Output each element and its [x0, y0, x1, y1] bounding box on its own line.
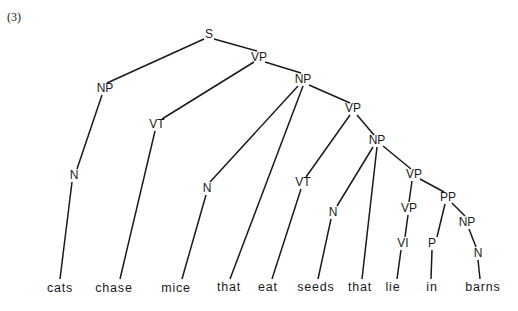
tree-edge-vp1-vt1: [162, 62, 254, 119]
tree-node-n3: N: [329, 205, 338, 219]
tree-edge-vt1-w2: [120, 131, 155, 279]
tree-node-np1: NP: [97, 81, 114, 95]
tree-edge-vp2-np3: [357, 115, 374, 135]
terminal-word-w4: that: [217, 280, 241, 294]
tree-node-n1: N: [70, 168, 79, 182]
tree-edge-p-w9: [431, 250, 432, 279]
tree-node-np3: NP: [369, 133, 386, 147]
tree-node-pp: PP: [440, 190, 456, 204]
tree-edge-s-np1: [107, 39, 204, 83]
tree-edge-np3-n3: [337, 147, 373, 206]
tree-nodes: SVPNPNPVTVPNPNNVTVPNPPVPNPVIPN: [70, 27, 483, 260]
syntax-tree-diagram: (3) SVPNPNPVTVPNPNNVTVPNPPVPNPVIPN catsc…: [0, 0, 518, 311]
tree-edge-pp-p: [437, 204, 445, 237]
tree-edge-pp-np4: [452, 203, 465, 216]
terminal-word-w1: cats: [47, 281, 73, 295]
tree-node-vt2: VT: [295, 175, 311, 189]
tree-node-vp4: VP: [401, 201, 417, 215]
tree-node-s: S: [205, 27, 213, 41]
terminal-word-w10: barns: [465, 280, 500, 294]
terminal-word-w5: eat: [258, 280, 278, 294]
tree-edges: [60, 39, 480, 279]
tree-edge-np4-n4: [469, 229, 476, 247]
example-number: (3): [7, 10, 21, 24]
terminal-word-w9: in: [426, 280, 437, 294]
tree-node-p: P: [428, 236, 436, 250]
tree-edge-np3-w7: [362, 147, 377, 279]
tree-node-np4: NP: [459, 215, 476, 229]
tree-node-n2: N: [203, 181, 212, 195]
tree-node-vt1: VT: [149, 117, 165, 131]
tree-edge-n2-w3: [182, 195, 206, 279]
terminal-words: catschasemicethateatseedsthatlieinbarns: [47, 280, 501, 295]
terminal-word-w7: that: [348, 280, 372, 294]
tree-edge-np2-vp2: [309, 85, 350, 103]
tree-edge-vp4-vi: [405, 215, 408, 237]
terminal-word-w6: seeds: [297, 280, 334, 294]
tree-edge-vt2-w5: [272, 189, 301, 279]
tree-node-vp3: VP: [406, 167, 422, 181]
tree-node-n4: N: [474, 246, 483, 260]
tree-edge-np3-vp3: [383, 146, 411, 169]
tree-node-vi: VI: [397, 236, 408, 250]
tree-edge-vp3-vp4: [409, 181, 412, 202]
tree-edge-vi-w8: [397, 250, 401, 279]
tree-edge-n3-w6: [318, 219, 331, 279]
terminal-word-w2: chase: [95, 281, 132, 295]
tree-node-vp1: VP: [251, 50, 267, 64]
terminal-word-w3: mice: [161, 281, 191, 295]
tree-edge-vp2-vt2: [306, 115, 350, 177]
tree-edge-n1-w1: [60, 182, 72, 279]
tree-edge-n4-w10: [478, 260, 480, 279]
tree-edge-np2-w4: [230, 86, 303, 279]
tree-node-np2: NP: [295, 72, 312, 86]
terminal-word-w8: lie: [386, 280, 401, 294]
tree-node-vp2: VP: [345, 101, 361, 115]
tree-edge-np1-n1: [77, 95, 102, 169]
